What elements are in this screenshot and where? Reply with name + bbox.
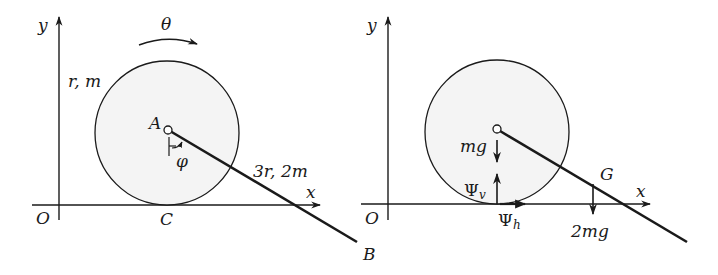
normal-force-subscript: v [479, 188, 486, 202]
friction-force-subscript: h [513, 218, 521, 232]
rod-label: 3r, 2m [253, 161, 308, 181]
mechanics-diagram: y x O θ r, m A φ 3r, 2m C B y x O mg [0, 0, 718, 275]
rod-end-label: B [362, 244, 376, 264]
pin-joint [164, 126, 172, 134]
pin-label: A [147, 113, 161, 133]
x-axis-label: x [636, 181, 646, 201]
origin-label: O [36, 208, 50, 228]
y-axis-label: y [37, 15, 48, 35]
rod-cg-label: G [600, 164, 614, 184]
pin-joint [493, 125, 501, 133]
disk-weight-label: mg [460, 136, 487, 156]
origin-label: O [365, 208, 379, 228]
right-figure: y x O mg Ψv Ψh G 2mg [361, 15, 687, 242]
angle-label: φ [176, 151, 188, 171]
rotation-arrow-icon [139, 39, 197, 45]
left-figure: y x O θ r, m A φ 3r, 2m C B [32, 14, 376, 264]
friction-force-label: Ψh [498, 210, 521, 232]
friction-force-symbol: Ψ [498, 210, 513, 230]
x-axis-label: x [306, 182, 316, 202]
y-axis-label: y [366, 15, 377, 35]
normal-force-symbol: Ψ [464, 180, 479, 200]
rotation-label: θ [161, 14, 171, 34]
disk-label: r, m [68, 71, 101, 91]
contact-point-label: C [160, 209, 173, 229]
rod-weight-label: 2mg [570, 221, 609, 241]
